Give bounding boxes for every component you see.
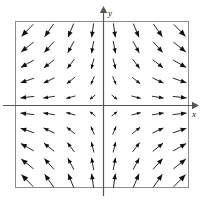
y-axis-label: y [107, 8, 112, 18]
x-axis-label: x [191, 109, 196, 119]
y-axis-arrowhead [100, 6, 107, 13]
plot-frame [16, 22, 189, 188]
vector-field-figure: y x [0, 0, 205, 203]
vector-field-plot: y x [0, 0, 205, 203]
